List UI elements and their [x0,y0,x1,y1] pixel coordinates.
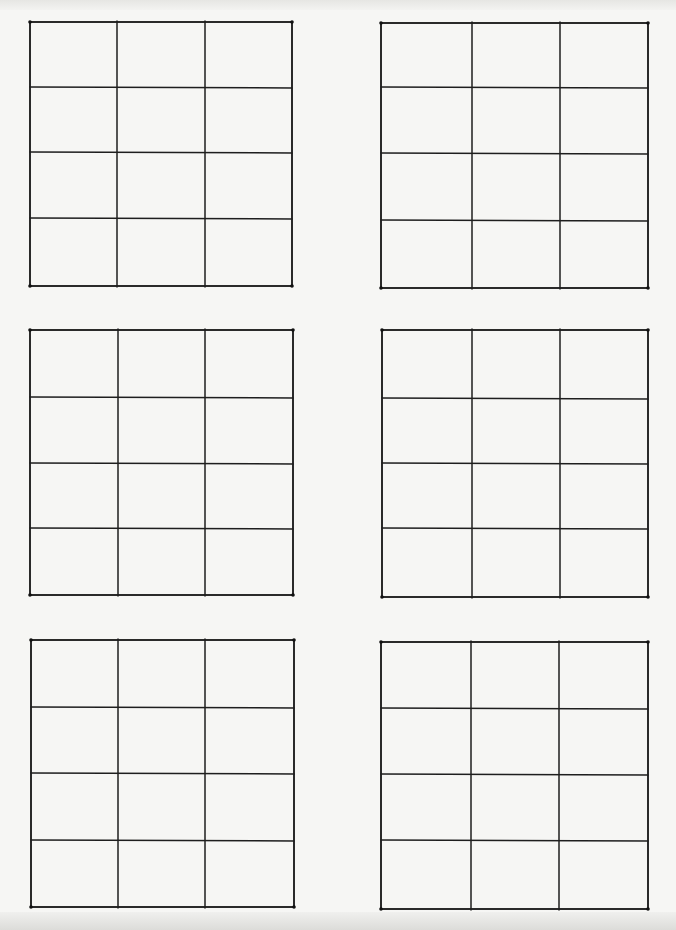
grid-cell-r2-c3 [206,708,293,772]
row-divider-3 [381,840,648,841]
grid-cell-r3-c2 [119,774,204,839]
grid-cell-r1-c2 [119,641,204,706]
grid-cell-r1-c3 [206,23,291,86]
grid-cell-r3-c3 [560,775,647,839]
grid-cell-r3-c3 [206,774,293,839]
grid-cell-r2-c1 [383,399,471,462]
grid-cell-r1-c2 [473,331,559,397]
grid-cell-r4-c1 [32,841,117,906]
row-divider-1 [382,398,648,399]
grid-cell-r2-c2 [119,708,204,772]
grid-cell-r3-c2 [473,154,559,219]
grid-cell-r4-c3 [206,219,291,285]
grid-sheet [0,0,676,930]
grid-cell-r3-c3 [206,153,291,217]
row-divider-1 [30,397,293,398]
grid-cell-r1-c3 [560,643,647,707]
grid-cell-r2-c3 [206,88,291,151]
grid-cell-r3-c3 [561,154,647,219]
grid-cell-r1-c1 [383,331,471,397]
grid-cell-r4-c2 [119,529,204,594]
grid-cell-r4-c2 [473,221,559,287]
grid-cell-r2-c2 [472,709,558,773]
grid-cell-r4-c1 [31,219,116,285]
grid-cell-r4-c1 [382,841,470,908]
grid-cell-r3-c1 [31,464,117,527]
row-divider-2 [30,463,293,464]
grid-bottom-left [29,638,296,909]
grid-cell-r4-c2 [473,529,559,596]
grid-cell-r3-c2 [472,775,558,839]
grid-top-right [379,21,650,290]
grid-cell-r4-c3 [206,529,292,594]
grid-cell-r1-c3 [206,641,293,706]
grid-cell-r4-c1 [383,529,471,596]
grid-cell-r1-c3 [206,331,292,396]
grid-cell-r4-c2 [118,219,204,285]
grid-cell-r2-c2 [473,399,559,462]
grid-cell-r4-c3 [206,841,293,906]
grid-cell-r4-c2 [119,841,204,906]
grid-cell-r4-c3 [561,221,647,287]
row-divider-3 [30,218,292,219]
grid-cell-r2-c1 [31,398,117,462]
grid-cell-r1-c3 [561,24,647,86]
row-divider-2 [382,463,648,464]
grid-cell-r1-c2 [119,331,204,396]
grid-cell-r1-c1 [32,641,117,706]
grid-cell-r1-c1 [382,643,470,707]
row-divider-3 [31,840,294,841]
grid-cell-r3-c1 [382,154,471,219]
row-divider-1 [381,708,648,709]
grid-cell-r1-c2 [473,24,559,86]
grid-cell-r4-c2 [472,841,558,908]
grid-cell-r2-c1 [382,709,470,773]
grid-cell-r2-c2 [119,398,204,462]
grid-cell-r3-c1 [383,464,471,527]
row-divider-1 [30,87,292,88]
row-divider-1 [31,707,294,708]
grid-cell-r3-c2 [473,464,559,527]
grid-cell-r1-c1 [31,331,117,396]
row-divider-3 [382,528,648,529]
grid-cell-r1-c3 [561,331,647,397]
grid-cell-r4-c1 [31,529,117,594]
grid-cell-r3-c2 [118,153,204,217]
grid-cell-r1-c1 [31,23,116,86]
grid-cell-r1-c1 [382,24,471,86]
grid-cell-r2-c1 [32,708,117,772]
grid-cell-r2-c3 [561,88,647,152]
grid-cell-r4-c1 [382,221,471,287]
grid-cell-r2-c2 [118,88,204,151]
grid-cell-r4-c3 [560,841,647,908]
grid-cell-r3-c3 [561,464,647,527]
row-divider-1 [381,87,648,88]
grid-cell-r3-c2 [119,464,204,527]
grid-cell-r2-c2 [473,88,559,152]
row-divider-3 [30,528,293,529]
grid-cell-r3-c3 [206,464,292,527]
row-divider-2 [30,152,292,153]
row-divider-2 [31,773,294,774]
grid-cell-r4-c3 [561,529,647,596]
grid-cell-r2-c3 [206,398,292,462]
grid-bottom-right [379,640,650,911]
grid-cell-r1-c2 [118,23,204,86]
grid-cell-r2-c3 [560,709,647,773]
grid-cell-r2-c1 [382,88,471,152]
grid-top-left [28,20,294,288]
row-divider-3 [381,220,648,221]
row-divider-2 [381,774,648,775]
row-divider-2 [381,153,648,154]
grid-cell-r2-c3 [561,399,647,462]
grid-middle-left [28,328,295,597]
grid-middle-right [380,328,650,599]
grid-cell-r1-c2 [472,643,558,707]
grid-cell-r2-c1 [31,88,116,151]
grid-cell-r3-c1 [382,775,470,839]
grid-cell-r3-c1 [32,774,117,839]
grid-cell-r3-c1 [31,153,116,217]
